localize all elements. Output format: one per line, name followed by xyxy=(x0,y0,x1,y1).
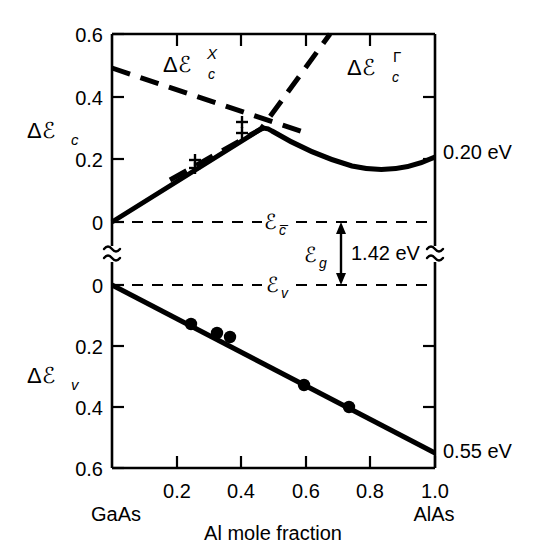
data-point xyxy=(224,331,236,343)
xtick-label-0.2: 0.2 xyxy=(163,480,191,502)
reference-label-ev-base: ℰ xyxy=(266,273,279,296)
ytick-label-upper-0.6: 0.6 xyxy=(75,24,103,46)
bandgap-value-label: 1.42 eV xyxy=(351,242,421,264)
data-point xyxy=(211,327,223,339)
ytick-label-lower-0.4: 0.4 xyxy=(75,397,103,419)
ytick-label-upper-0.4: 0.4 xyxy=(75,87,103,109)
y-axis-title-upper-base: Δℰ xyxy=(27,118,55,143)
curve-label-G-base: Δℰ xyxy=(347,55,375,80)
curve-label-X-sub: c xyxy=(208,66,215,82)
y-axis-title-lower-base: Δℰ xyxy=(27,363,55,388)
ytick-label-upper-0.2: 0.2 xyxy=(75,149,103,171)
conduction-offset-label: 0.20 eV xyxy=(443,141,513,163)
ytick-label-lower-0: 0 xyxy=(92,275,103,297)
xtick-label-0.8: 0.8 xyxy=(356,480,384,502)
curve-label-G-sup: Γ xyxy=(393,48,401,65)
reference-label-ec-base: ℰ xyxy=(264,210,277,233)
chart-svg: 0.6 0.4 0.2 0 0 0.2 0.4 0.6 0.2 0.4 0.6 … xyxy=(0,0,541,545)
curve-label-X-sup: X xyxy=(206,45,218,62)
ytick-label-upper-0: 0 xyxy=(92,212,103,234)
ytick-label-lower-0.2: 0.2 xyxy=(75,336,103,358)
xtick-label-0.4: 0.4 xyxy=(227,480,255,502)
figure-band-offset-diagram: 0.6 0.4 0.2 0 0 0.2 0.4 0.6 0.2 0.4 0.6 … xyxy=(0,0,541,545)
data-point xyxy=(185,318,197,330)
curve-label-X-base: Δℰ xyxy=(163,52,191,77)
reference-label-ev-sub: v xyxy=(281,285,289,301)
x-endpoint-label-left: GaAs xyxy=(91,503,141,525)
bandgap-symbol-base: ℰ xyxy=(304,243,317,266)
xtick-label-1.0: 1.0 xyxy=(421,480,449,502)
bandgap-symbol-sub: g xyxy=(319,255,327,271)
valence-offset-label: 0.55 eV xyxy=(443,440,513,462)
y-axis-title-upper-sub: c xyxy=(71,131,79,148)
curve-label-G-sub: c xyxy=(392,69,399,85)
xtick-label-0.6: 0.6 xyxy=(292,480,320,502)
x-endpoint-label-right: AlAs xyxy=(413,503,454,525)
x-axis-title: Al mole fraction xyxy=(204,522,342,544)
data-point xyxy=(343,401,355,413)
data-point xyxy=(298,379,310,391)
ytick-label-lower-0.6: 0.6 xyxy=(75,458,103,480)
